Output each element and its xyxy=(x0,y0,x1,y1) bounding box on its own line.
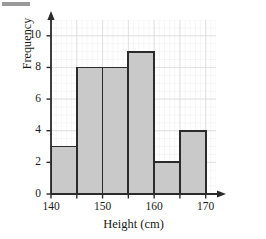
y-tick-label: 0 xyxy=(19,187,41,199)
y-tick-label: 4 xyxy=(19,123,41,135)
x-tick-label: 170 xyxy=(189,200,223,212)
y-axis-title: Frequency xyxy=(20,0,35,99)
histogram-chart: 0246810 140150160170 Frequency Height (c… xyxy=(0,0,266,239)
y-tick-label: 2 xyxy=(19,155,41,167)
x-tick-label: 140 xyxy=(34,200,68,212)
x-tick-label: 160 xyxy=(137,200,171,212)
x-axis-title: Height (cm) xyxy=(51,217,216,232)
x-tick-label: 150 xyxy=(86,200,120,212)
